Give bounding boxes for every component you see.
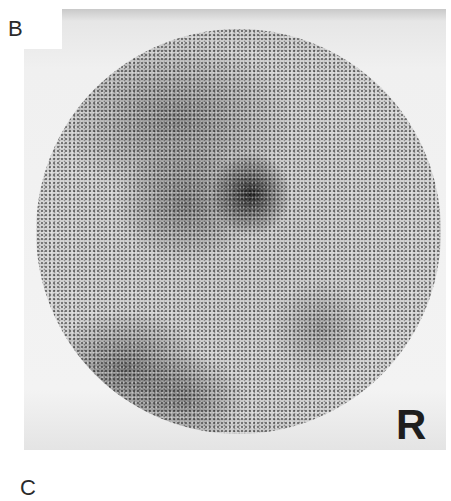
- orientation-marker-right: R: [396, 401, 426, 449]
- panel-label-b: B: [8, 16, 23, 42]
- scan-image: R: [24, 9, 446, 450]
- panel-label-c: C: [20, 475, 36, 501]
- scan-field-of-view: [36, 29, 441, 434]
- scan-count-texture: [36, 29, 441, 434]
